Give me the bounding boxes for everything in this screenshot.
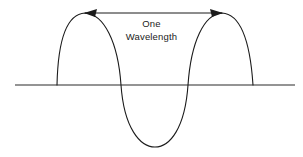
arrow-head-right-icon — [210, 9, 223, 17]
arrow-head-left-icon — [84, 9, 97, 17]
wavelength-label-line-two: Wavelength — [0, 30, 303, 43]
wavelength-diagram: One Wavelength — [0, 0, 303, 157]
wavelength-label-line-one: One — [0, 17, 303, 30]
